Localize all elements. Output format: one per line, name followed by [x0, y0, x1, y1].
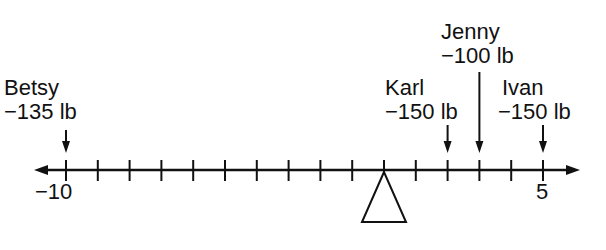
- down-arrow-icon: [475, 72, 483, 153]
- person-name-jenny: Jenny: [441, 20, 500, 44]
- person-name-betsy: Betsy: [4, 76, 59, 100]
- weight-arrows: [62, 72, 547, 153]
- person-weight-karl: −150 lb: [385, 100, 458, 124]
- person-name-karl: Karl: [385, 76, 424, 100]
- fulcrum-triangle-icon: [362, 172, 406, 222]
- down-arrow-icon: [62, 130, 70, 153]
- tick-label-max: 5: [536, 180, 548, 204]
- diagram-graphics: [0, 0, 606, 250]
- seesaw-diagram: Betsy −135 lb Karl −150 lb Jenny −100 lb…: [0, 0, 606, 250]
- down-arrow-icon: [444, 125, 452, 153]
- tick-label-min: −10: [35, 180, 72, 204]
- left-arrowhead-icon: [34, 165, 48, 175]
- right-arrowhead-icon: [566, 165, 580, 175]
- person-weight-ivan: −150 lb: [498, 100, 571, 124]
- person-weight-jenny: −100 lb: [441, 44, 514, 68]
- down-arrow-icon: [539, 125, 547, 153]
- person-weight-betsy: −135 lb: [4, 100, 77, 124]
- person-name-ivan: Ivan: [502, 76, 544, 100]
